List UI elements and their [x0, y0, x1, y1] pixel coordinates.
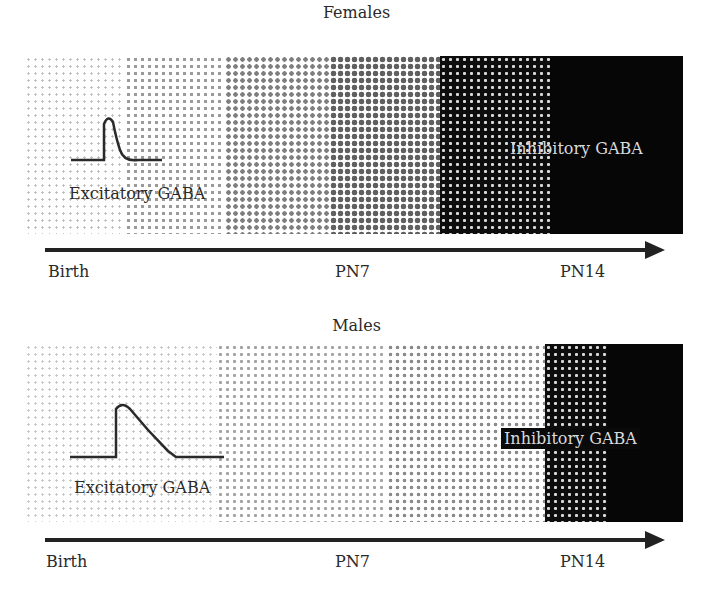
arrowhead-icon [645, 531, 665, 549]
tick-pn14: PN14 [560, 262, 605, 281]
females-time-axis [45, 241, 665, 259]
axis-line [45, 538, 645, 542]
males-time-axis [45, 531, 665, 549]
axis-line [45, 248, 645, 252]
segment-light [217, 344, 387, 522]
tick-pn14: PN14 [560, 552, 605, 571]
inhibitory-gaba-label: Inhibitory GABA [501, 429, 640, 448]
excitatory-gaba-label: Excitatory GABA [69, 184, 205, 203]
tick-pn7: PN7 [335, 262, 370, 281]
panel-title-males: Males [0, 316, 713, 335]
tick-pn7: PN7 [335, 552, 370, 571]
segment-medium [225, 56, 330, 234]
excitatory-trace-icon [68, 110, 168, 170]
excitatory-trace-icon [68, 395, 228, 465]
arrowhead-icon [645, 241, 665, 259]
segment-dark [330, 56, 440, 234]
inhibitory-gaba-label: Inhibitory GABA [510, 139, 643, 158]
tick-birth: Birth [48, 262, 89, 281]
tick-birth: Birth [46, 552, 87, 571]
panel-title-females: Females [0, 3, 713, 22]
excitatory-gaba-label: Excitatory GABA [74, 478, 210, 497]
inhibitory-label-box: Inhibitory GABA [501, 428, 640, 449]
